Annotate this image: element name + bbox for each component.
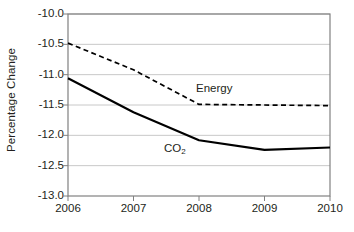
x-tick-label: 2007 — [121, 203, 147, 215]
series-annotation-co2: CO2 — [164, 143, 186, 155]
x-tick-label: 2006 — [55, 203, 81, 215]
y-axis-ticks — [63, 14, 68, 196]
series-annotation-energy: Energy — [196, 83, 232, 95]
x-tick-label: 2009 — [252, 203, 278, 215]
x-axis-ticks — [68, 196, 330, 201]
series-annotation-co2-text: CO — [164, 142, 181, 154]
x-tick-label: 2010 — [317, 203, 343, 215]
series-annotation-co2-subscript: 2 — [181, 147, 185, 156]
chart-plot-area — [0, 0, 354, 232]
series-annotation-energy-text: Energy — [196, 82, 232, 94]
x-tick-label: 2008 — [186, 203, 212, 215]
chart-figure: Percentage Change -10.0 -10.5 -11.0 -11.… — [0, 0, 354, 232]
